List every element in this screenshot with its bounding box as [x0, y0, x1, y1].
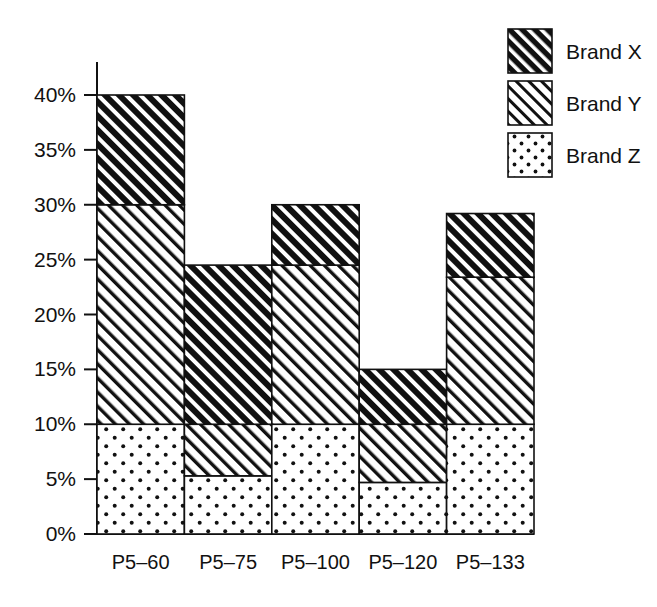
bar-segment	[97, 205, 184, 425]
y-axis: 0%5%10%15%20%25%30%35%40%	[34, 62, 97, 545]
bar-segment	[184, 476, 271, 534]
bar-stack	[447, 214, 534, 534]
legend-item: Brand Z	[508, 133, 641, 177]
bar-segment	[359, 369, 446, 424]
x-axis: P5–60P5–75P5–100P5–120P5–133	[97, 534, 534, 573]
bar-segment	[447, 277, 534, 424]
bar-segment	[272, 424, 359, 534]
y-axis-tick-label: 25%	[34, 248, 76, 271]
y-axis-tick-label: 30%	[34, 193, 76, 216]
bar-segment	[447, 424, 534, 534]
bar-segment	[272, 205, 359, 265]
bar-stack	[97, 95, 184, 534]
bar-stack	[184, 265, 271, 534]
y-axis-tick-label: 15%	[34, 357, 76, 380]
bars-group	[97, 95, 534, 534]
bar-segment	[359, 424, 446, 482]
y-axis-tick-label: 35%	[34, 138, 76, 161]
legend-item: Brand X	[508, 29, 642, 73]
bar-segment	[97, 424, 184, 534]
x-axis-tick-label: P5–100	[281, 551, 350, 573]
x-axis-tick-label: P5–75	[199, 551, 257, 573]
x-axis-tick-label: P5–120	[368, 551, 437, 573]
bar-segment	[359, 482, 446, 534]
y-axis-tick-label: 40%	[34, 83, 76, 106]
x-axis-tick-label: P5–133	[456, 551, 525, 573]
legend-swatch	[508, 81, 552, 125]
x-axis-tick-label: P5–60	[112, 551, 170, 573]
y-axis-tick-label: 0%	[46, 522, 76, 545]
y-axis-tick-label: 5%	[46, 467, 76, 490]
bar-segment	[184, 265, 271, 424]
bar-segment	[272, 265, 359, 424]
legend-label: Brand X	[566, 40, 642, 63]
stacked-bar-chart: 0%5%10%15%20%25%30%35%40% P5–60P5–75P5–1…	[0, 0, 657, 607]
legend-item: Brand Y	[508, 81, 642, 125]
chart-legend: Brand XBrand YBrand Z	[508, 29, 642, 177]
chart-canvas: 0%5%10%15%20%25%30%35%40% P5–60P5–75P5–1…	[0, 0, 657, 607]
y-axis-tick-label: 10%	[34, 412, 76, 435]
legend-label: Brand Y	[566, 92, 642, 115]
y-axis-tick-label: 20%	[34, 303, 76, 326]
bar-stack	[272, 205, 359, 534]
legend-swatch	[508, 133, 552, 177]
legend-label: Brand Z	[566, 144, 641, 167]
bar-segment	[447, 214, 534, 278]
bar-segment	[184, 424, 271, 476]
legend-swatch	[508, 29, 552, 73]
bar-segment	[97, 95, 184, 205]
bar-stack	[359, 369, 446, 534]
